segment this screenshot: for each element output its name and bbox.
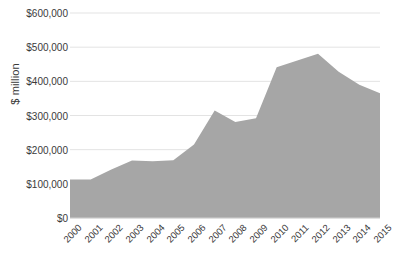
x-axis-tick-labels: 2000200120022003200420052006200720082009… xyxy=(0,0,386,262)
area-chart: $ million $0$100,000$200,000$300,000$400… xyxy=(0,0,386,262)
